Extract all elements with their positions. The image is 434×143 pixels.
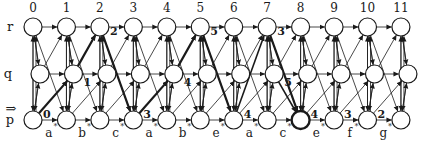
transition-edge [302,83,306,111]
state-node-q-4 [165,65,183,83]
state-node-p-3 [124,111,142,129]
state-node-p-0 [24,111,42,129]
star-mark: * [321,122,325,131]
step-number: 5 [210,25,218,38]
star-mark: * [288,122,292,131]
transition-edge [202,83,206,111]
transition-edge [245,35,262,66]
input-symbol: c [112,126,119,140]
state-node-q-7 [265,65,283,83]
state-node-q-10 [366,65,384,83]
transition-edge [111,35,128,66]
column-label: 6 [230,1,238,15]
state-node-p-4 [158,111,176,129]
star-mark: * [87,122,91,131]
input-symbol: a [145,126,152,140]
state-node-p-10 [359,111,377,129]
column-label: 4 [163,1,171,15]
transition-edge [312,35,329,66]
transition-edge [34,83,38,111]
transition-edge [68,83,72,111]
star-mark: * [355,122,359,131]
state-node-q-0 [31,65,49,83]
state-node-r-0 [24,18,42,36]
column-label: 3 [130,1,138,15]
state-node-r-10 [359,18,377,36]
state-node-q-9 [332,65,350,83]
step-number: 4 [311,108,319,121]
start-arrow-icon: ⇒ [6,101,17,116]
step-number: 0 [43,108,51,121]
star-mark: * [53,122,57,131]
transition-edge [269,83,273,111]
star-mark: * [120,122,124,131]
column-label: 9 [330,1,338,15]
input-symbol: a [45,126,52,140]
star-mark: * [187,122,191,131]
column-label: 2 [96,1,104,15]
step-number: 2 [378,108,386,121]
input-symbol: f [348,126,354,140]
step-number: 3 [277,25,285,38]
star-mark: * [154,122,158,131]
state-node-r-7 [258,18,276,36]
state-node-r-5 [191,18,209,36]
transition-edge [379,35,396,66]
state-node-r-9 [325,18,343,36]
transition-edge [101,83,105,111]
input-symbol: e [212,126,219,140]
state-node-q-2 [98,65,116,83]
state-node-p-7 [258,111,276,129]
state-node-p-2 [91,111,109,129]
transition-edge [135,83,139,111]
state-node-p-8 [292,111,310,129]
state-node-q-5 [198,65,216,83]
trellis-diagram: 01234567891011rqp⇒a*b*c*a*b*e*a*c*e*f*g*… [0,0,434,143]
star-mark: * [221,122,225,131]
column-label: 8 [297,1,305,15]
state-node-p-6 [225,111,243,129]
state-node-r-6 [225,18,243,36]
transition-edge [402,36,406,65]
column-label: 7 [263,1,271,15]
transition-edge [212,35,229,66]
step-number: 2 [110,25,118,38]
step-number: 5 [284,76,292,89]
state-node-r-3 [124,18,142,36]
input-symbol: c [280,126,287,140]
highlighted-edge [78,35,95,66]
column-label: 11 [393,1,408,15]
step-number: 4 [244,108,252,121]
column-label: 1 [63,1,71,15]
transition-edge [345,35,362,66]
state-node-q-3 [131,65,149,83]
transition-edge [168,83,172,111]
column-label: 0 [29,1,37,15]
highlighted-edge [178,35,195,66]
state-node-r-4 [158,18,176,36]
transition-edge [44,35,61,66]
input-symbol: g [379,126,387,140]
step-number: 3 [344,108,352,121]
star-mark: * [254,122,258,131]
transition-edge [402,83,406,111]
state-node-r-11 [392,18,410,36]
input-symbol: e [313,126,320,140]
transition-edge [279,35,296,66]
transition-edge [335,83,339,111]
step-number: 1 [83,76,91,89]
input-symbol: b [179,126,187,140]
state-node-p-11 [392,111,410,129]
star-mark: * [388,122,392,131]
state-node-q-1 [64,65,82,83]
column-label: 10 [360,1,375,15]
state-node-q-11 [399,65,417,83]
transition-edge [369,83,373,111]
row-label-r: r [7,19,14,34]
state-node-q-6 [232,65,250,83]
state-nodes [24,18,417,129]
input-symbol: a [246,126,253,140]
state-node-p-5 [191,111,209,129]
transition-edge [145,35,162,66]
state-node-q-8 [299,65,317,83]
